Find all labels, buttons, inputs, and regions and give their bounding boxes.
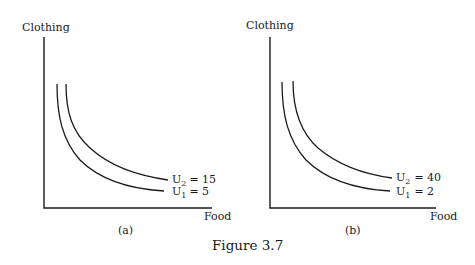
- figure-caption: Figure 3.7: [212, 237, 283, 253]
- indifference-curve-u1: [57, 84, 164, 191]
- indifference-curve-u2: [66, 84, 168, 180]
- panel-b: Clothing U2= 40 U1= 2 Food (b): [246, 19, 457, 237]
- y-axis-label: Clothing: [22, 21, 70, 34]
- y-axis-label: Clothing: [246, 19, 294, 32]
- axes: [44, 37, 212, 208]
- panel-a: Clothing U2= 15 U1= 5 Food (a): [22, 21, 231, 237]
- panel-label: (b): [345, 224, 361, 237]
- indifference-curve-u2: [293, 81, 392, 178]
- x-axis-label: Food: [204, 210, 231, 223]
- panel-label: (a): [118, 224, 133, 237]
- axes: [270, 37, 436, 208]
- curve-label-u1: U1= 5: [172, 185, 209, 200]
- figure-3-7: Clothing U2= 15 U1= 5 Food (a) Clothing …: [0, 0, 475, 265]
- curve-label-u2: U2= 40: [396, 171, 441, 186]
- curve-label-u1: U1= 2: [396, 185, 434, 200]
- x-axis-label: Food: [430, 210, 457, 223]
